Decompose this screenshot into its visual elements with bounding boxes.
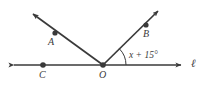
point-label-b: B	[143, 29, 149, 39]
point-dot-c	[40, 62, 46, 68]
geometry-canvas	[0, 0, 211, 95]
angle-arc	[119, 49, 126, 65]
geometry-diagram: A B C O x + 15° ℓ	[0, 0, 211, 95]
point-label-a: A	[48, 37, 54, 47]
point-label-c: C	[39, 70, 46, 80]
point-dot-o	[100, 62, 106, 68]
ray-OA-stroke	[33, 14, 103, 65]
point-label-o: O	[99, 70, 106, 80]
ray-OA	[33, 14, 103, 65]
line-label-ell: ℓ	[191, 58, 196, 69]
angle-measure-label: x + 15°	[129, 51, 158, 61]
point-dot-b	[143, 22, 148, 27]
point-dot-a	[52, 30, 57, 35]
